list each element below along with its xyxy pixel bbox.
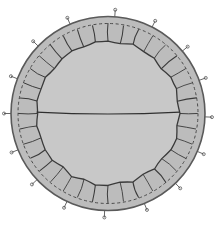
cross-section-diagram	[0, 0, 217, 229]
figure-root	[0, 0, 217, 229]
